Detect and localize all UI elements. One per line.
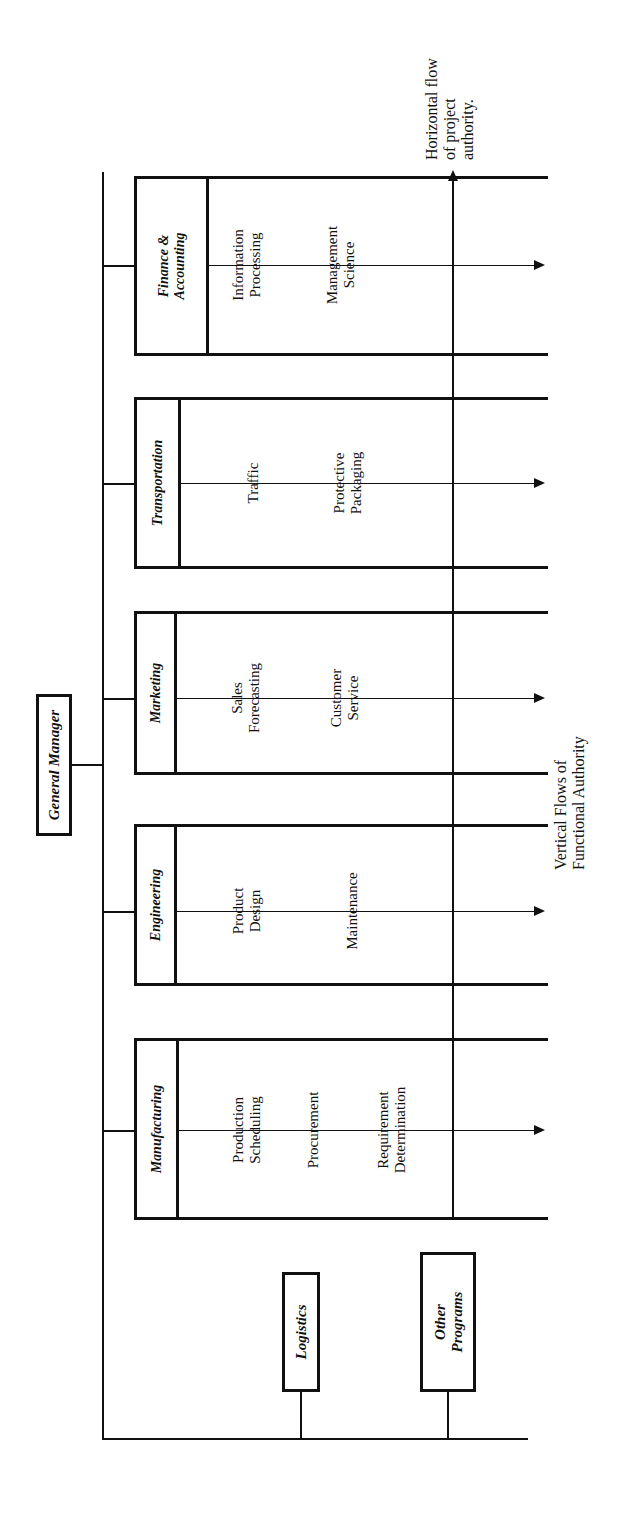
item-label-line: Forecasting — [246, 663, 262, 733]
band-head-engineering: Engineering — [137, 827, 177, 983]
logistics-connector — [300, 1392, 302, 1440]
item-label-line: Design — [247, 890, 263, 933]
band-connector-manufacturing — [102, 1130, 136, 1132]
item-information-processing: Information Processing — [230, 229, 264, 301]
program-label-other-programs: Other Programs — [432, 1292, 465, 1353]
band-head-transportation: Transportation — [137, 400, 181, 566]
item-label-line: Scheduling — [247, 1096, 263, 1164]
item-requirement-determination: Requirement Determination — [375, 1087, 409, 1174]
flow-arrow-manufacturing — [534, 1125, 545, 1135]
annotation-line: Vertical Flows of — [552, 760, 569, 870]
flow-arrow-marketing — [534, 693, 545, 703]
spine-vertical-line — [102, 172, 104, 1440]
annotation-line: authority. — [459, 99, 476, 160]
item-label-line: Customer — [328, 669, 344, 727]
vertical-authority-line — [452, 176, 454, 1220]
item-label-line: Product — [230, 888, 246, 935]
item-label-line: Determination — [392, 1087, 408, 1174]
band-title-line: Accounting — [172, 233, 187, 300]
item-label-line: Production — [230, 1097, 246, 1163]
program-label-line: Logistics — [293, 1305, 309, 1360]
flow-arrow-transportation — [534, 478, 545, 488]
item-label-line: Processing — [247, 233, 263, 298]
band-title-line: Finance & — [156, 235, 171, 298]
item-label-line: Maintenance — [344, 872, 360, 949]
item-customer-service: Customer Service — [328, 669, 362, 727]
item-management-science: Management Science — [324, 226, 358, 304]
item-label-line: Requirement — [375, 1091, 391, 1168]
band-title-line: Transportation — [150, 440, 165, 527]
band-title-engineering: Engineering — [148, 869, 164, 941]
program-box-other-programs[interactable]: Other Programs — [420, 1252, 476, 1392]
program-label-line: Other — [432, 1304, 448, 1340]
general-manager-box[interactable]: General Manager — [36, 694, 72, 836]
item-label-line: Science — [341, 242, 357, 289]
item-sales-forecasting: Sales Forecasting — [229, 663, 263, 733]
annotation-horizontal-flow: Horizontal flow of project authority. — [423, 58, 477, 160]
item-maintenance: Maintenance — [344, 872, 361, 949]
annotation-line: Functional Authority — [570, 736, 587, 870]
band-connector-engineering — [102, 911, 136, 913]
item-protective-packaging: Protective Packaging — [331, 452, 365, 514]
item-label-line: Packaging — [348, 452, 364, 514]
program-label-line: Programs — [448, 1292, 464, 1353]
band-title-line: Engineering — [148, 869, 163, 941]
band-head-finance-accounting: Finance & Accounting — [137, 179, 209, 353]
annotation-vertical-flows: Vertical Flows of Functional Authority — [552, 736, 588, 870]
other-programs-connector — [447, 1392, 449, 1440]
band-head-manufacturing: Manufacturing — [137, 1041, 179, 1217]
item-production-scheduling: Production Scheduling — [230, 1096, 264, 1164]
general-manager-label: General Manager — [46, 710, 63, 820]
item-label-line: Protective — [331, 453, 347, 514]
band-title-manufacturing: Manufacturing — [149, 1085, 165, 1174]
spine-bottom-line — [102, 1438, 528, 1440]
item-label-line: Traffic — [245, 463, 261, 504]
program-label-logistics: Logistics — [293, 1305, 310, 1360]
general-manager-connector — [72, 764, 104, 766]
item-label-line: Service — [345, 676, 361, 721]
item-label-line: Management — [324, 226, 340, 304]
item-procurement: Procurement — [305, 1092, 322, 1169]
vertical-authority-arrow — [448, 170, 458, 181]
band-title-marketing: Marketing — [148, 663, 164, 724]
item-traffic: Traffic — [245, 463, 262, 504]
flow-arrow-finance-accounting — [534, 260, 545, 270]
item-label-line: Procurement — [305, 1092, 321, 1169]
band-title-finance-accounting: Finance & Accounting — [156, 233, 187, 300]
band-engineering[interactable]: Engineering — [134, 824, 548, 986]
band-connector-transportation — [102, 483, 136, 485]
item-label-line: Sales — [229, 682, 245, 714]
band-title-line: Marketing — [148, 663, 163, 724]
band-connector-marketing — [102, 698, 136, 700]
program-box-logistics[interactable]: Logistics — [282, 1272, 320, 1392]
band-connector-finance-accounting — [102, 265, 136, 267]
band-manufacturing[interactable]: Manufacturing — [134, 1038, 548, 1220]
annotation-line: of project — [441, 98, 458, 160]
band-head-marketing: Marketing — [137, 614, 177, 772]
band-title-transportation: Transportation — [150, 440, 166, 527]
annotation-line: Horizontal flow — [423, 58, 440, 160]
flow-arrow-engineering — [534, 906, 545, 916]
item-product-design: Product Design — [230, 888, 264, 935]
item-label-line: Information — [230, 229, 246, 301]
diagram-canvas: General Manager Finance & Accounting Inf… — [0, 0, 624, 1528]
band-title-line: Manufacturing — [149, 1085, 164, 1174]
